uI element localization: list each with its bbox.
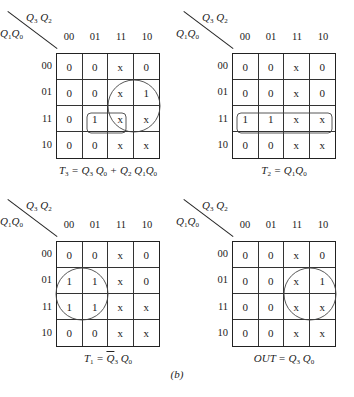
row-header: 10	[28, 139, 52, 150]
equation-t1: T1 = Q3 Q0	[56, 352, 160, 366]
kmap-cell: 1	[83, 106, 109, 132]
kmap-cell: 0	[83, 54, 109, 80]
kmap-cell: 0	[233, 80, 259, 106]
kmap-cell: x	[284, 268, 310, 294]
kmap-cell: x	[310, 320, 336, 346]
kmap-cell: 1	[233, 106, 259, 132]
col-header: 10	[310, 31, 336, 42]
row-header: 10	[204, 327, 228, 338]
kmap-cell: 0	[233, 320, 259, 346]
kmap-cell: 0	[134, 268, 160, 294]
col-variable-label: Q3 Q2	[202, 11, 228, 25]
kmap-cell: 0	[310, 242, 336, 268]
col-header: 01	[82, 31, 108, 42]
kmap-cell: x	[310, 106, 336, 132]
row-variable-label: Q1Q0	[176, 215, 199, 229]
kmap-cell: x	[284, 294, 310, 320]
kmap-grid: 0 0 x 0 0 0 x 1 0 1 x x 0 0 x x	[56, 53, 160, 159]
col-header: 01	[258, 31, 284, 42]
kmap-t2: Q3 Q2 Q1Q0 00 01 11 10 00 01 11 10 0 0 x…	[232, 53, 336, 159]
kmap-cell: x	[134, 320, 160, 346]
kmap-cell: 0	[134, 242, 160, 268]
kmap-cell: x	[108, 106, 134, 132]
kmap-cell: 1	[259, 106, 285, 132]
col-variable-label: Q3 Q2	[26, 199, 52, 213]
col-header: 01	[258, 219, 284, 230]
kmap-cell: 1	[57, 268, 83, 294]
kmap-cell: 0	[134, 54, 160, 80]
row-header: 01	[204, 86, 228, 97]
row-header: 00	[204, 60, 228, 71]
kmap-cell: 0	[233, 294, 259, 320]
kmap-cell: x	[108, 294, 134, 320]
row-header: 10	[28, 327, 52, 338]
kmap-cell: 0	[57, 132, 83, 158]
kmap-cell: 1	[83, 268, 109, 294]
kmap-grid: 0 0 x 0 0 0 x 0 1 1 x x 0 0 x x	[232, 53, 336, 159]
kmap-cell: x	[108, 132, 134, 158]
kmap-cell: x	[134, 106, 160, 132]
col-header: 11	[108, 219, 134, 230]
row-header: 11	[204, 301, 228, 312]
equation-out: OUT = Q3 Q0	[232, 352, 336, 366]
kmap-out: Q3 Q2 Q1Q0 00 01 11 10 00 01 11 10 0 0 x…	[232, 241, 336, 347]
kmap-cell: x	[284, 54, 310, 80]
kmap-cell: x	[108, 80, 134, 106]
equation-t2: T2 = Q1Q0	[232, 164, 336, 178]
kmap-cell: x	[284, 80, 310, 106]
kmap-cell: x	[134, 132, 160, 158]
row-header: 11	[28, 301, 52, 312]
kmap-cell: x	[284, 320, 310, 346]
kmap-cell: 0	[83, 80, 109, 106]
kmap-cell: 0	[57, 320, 83, 346]
kmap-cell: x	[108, 242, 134, 268]
kmap-cell: 0	[259, 268, 285, 294]
col-header: 00	[56, 219, 82, 230]
col-variable-label: Q3 Q2	[202, 199, 228, 213]
kmap-cell: x	[310, 132, 336, 158]
kmap-grid: 0 0 x 0 1 1 x 0 1 1 x x 0 0 x x	[56, 241, 160, 347]
kmap-cell: 0	[233, 242, 259, 268]
kmap-cell: x	[284, 106, 310, 132]
row-header: 01	[28, 86, 52, 97]
kmap-cell: 0	[83, 132, 109, 158]
col-header: 11	[284, 31, 310, 42]
kmap-t3: Q3 Q2 Q1Q0 00 01 11 10 00 01 11 10 0 0 x…	[56, 53, 160, 159]
row-header: 00	[204, 248, 228, 259]
kmap-cell: 0	[57, 242, 83, 268]
kmap-cell: 0	[259, 54, 285, 80]
kmap-cell: x	[134, 294, 160, 320]
col-header: 11	[284, 219, 310, 230]
row-header: 11	[28, 113, 52, 124]
row-header: 00	[28, 60, 52, 71]
kmap-cell: x	[284, 242, 310, 268]
kmap-cell: x	[310, 294, 336, 320]
kmap-cell: 0	[259, 242, 285, 268]
row-variable-label: Q1Q0	[176, 27, 199, 41]
kmap-cell: 0	[57, 106, 83, 132]
kmap-t1: Q3 Q2 Q1Q0 00 01 11 10 00 01 11 10 0 0 x…	[56, 241, 160, 347]
kmap-cell: x	[108, 268, 134, 294]
row-header: 01	[28, 274, 52, 285]
col-header: 00	[232, 219, 258, 230]
kmap-cell: 0	[310, 54, 336, 80]
equation-t3: T3 = Q3 Q0 + Q2 Q1Q0	[28, 164, 188, 178]
kmap-cell: 1	[57, 294, 83, 320]
subfigure-label: (b)	[0, 368, 354, 380]
col-header: 00	[232, 31, 258, 42]
col-header: 01	[82, 219, 108, 230]
col-variable-label: Q3 Q2	[26, 11, 52, 25]
kmap-cell: 1	[83, 294, 109, 320]
kmap-cell: 0	[83, 242, 109, 268]
kmap-grid: 0 0 x 0 0 0 x 1 0 0 x x 0 0 x x	[232, 241, 336, 347]
kmap-cell: 1	[134, 80, 160, 106]
col-header: 00	[56, 31, 82, 42]
kmap-cell: 0	[233, 54, 259, 80]
row-header: 11	[204, 113, 228, 124]
kmap-cell: 0	[233, 132, 259, 158]
kmap-cell: 0	[57, 54, 83, 80]
row-header: 01	[204, 274, 228, 285]
kmap-cell: 0	[83, 320, 109, 346]
kmap-cell: 0	[259, 294, 285, 320]
kmap-cell: 0	[259, 320, 285, 346]
